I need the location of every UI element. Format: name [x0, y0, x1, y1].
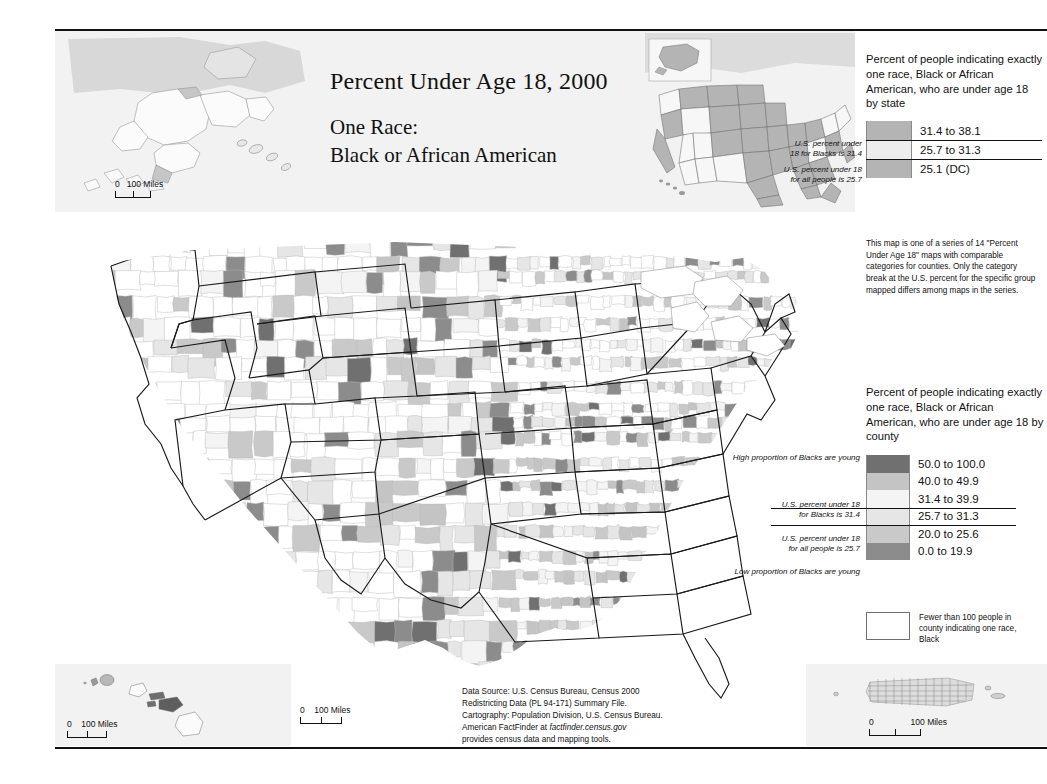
county-polygon	[258, 296, 272, 319]
county-polygon	[625, 272, 633, 284]
county-legend-label: 20.0 to 25.6	[910, 525, 979, 543]
county-polygon	[681, 358, 695, 370]
county-polygon	[251, 381, 267, 399]
state-legend-row[interactable]: 25.7 to 31.3	[866, 140, 1042, 159]
state-legend-label: 25.1 (DC)	[912, 159, 970, 178]
county-legend-swatch	[866, 455, 910, 473]
county-polygon	[512, 295, 521, 304]
county-legend-nodata[interactable]: Fewer than 100 people in county indicati…	[866, 612, 1029, 645]
county-polygon	[511, 598, 520, 612]
county-polygon	[203, 255, 227, 272]
county-polygon	[542, 403, 553, 411]
county-polygon	[572, 257, 581, 269]
county-legend-row[interactable]: 25.7 to 31.3	[866, 508, 1044, 526]
us-county-map-svg	[75, 228, 855, 736]
county-legend-row[interactable]: 50.0 to 100.0	[866, 455, 1044, 473]
alaska-inset-svg	[60, 33, 310, 209]
factfinder-url: factfinder.census.gov	[549, 723, 626, 732]
county-polygon	[554, 271, 567, 283]
county-polygon	[540, 296, 553, 306]
county-polygon	[352, 551, 379, 569]
county-legend-row[interactable]: 31.4 to 39.9	[866, 490, 1044, 508]
county-polygon	[172, 355, 189, 372]
county-polygon	[627, 316, 636, 325]
county-polygon	[626, 339, 637, 351]
county-polygon	[398, 598, 424, 618]
county-polygon	[674, 256, 685, 267]
map-page: 0 100 Miles Percent Under Age 18, 2000 O…	[0, 0, 1047, 784]
county-polygon	[133, 296, 157, 322]
state-legend-label: 25.7 to 31.3	[912, 140, 981, 159]
main-map-scalebar: 0 100 Miles	[300, 706, 358, 724]
state-legend-row[interactable]: 31.4 to 38.1	[866, 121, 1042, 140]
county-polygon	[600, 358, 612, 372]
hawaii-scalebar-zero: 0	[67, 719, 72, 729]
county-polygon	[530, 256, 539, 269]
state-legend-label: 31.4 to 38.1	[912, 121, 981, 140]
county-legend-row[interactable]: 20.0 to 25.6	[866, 525, 1044, 543]
hawaii-scalebar-value: 100 Miles	[81, 719, 117, 729]
county-polygon	[564, 526, 573, 537]
title-block: Percent Under Age 18, 2000 One Race: Bla…	[330, 68, 690, 169]
county-legend-swatch	[866, 525, 910, 543]
county-legend-row[interactable]: 40.0 to 49.9	[866, 473, 1044, 491]
county-polygon	[591, 339, 600, 348]
county-polygon	[143, 318, 166, 343]
county-polygon	[255, 459, 275, 475]
county-polygon	[631, 383, 646, 393]
county-polygon	[591, 270, 603, 281]
county-polygon	[500, 296, 512, 306]
county-note-low-1: Low proportion of Blacks are young	[735, 567, 860, 577]
county-polygon	[555, 502, 569, 512]
county-polygon	[291, 459, 312, 473]
source-line-5: provides census data and mapping tools.	[462, 734, 762, 746]
county-polygon	[544, 503, 557, 515]
county-polygon	[533, 297, 541, 305]
county-polygon	[645, 404, 658, 413]
county-polygon	[335, 318, 355, 340]
pr-scalebar-zero: 0	[869, 718, 874, 727]
county-polygon	[550, 620, 558, 630]
county-polygon	[199, 381, 225, 407]
county-polygon	[430, 381, 448, 400]
county-polygon	[653, 297, 665, 312]
county-legend-swatch	[866, 473, 910, 491]
county-note-blacks-1: U.S. percent under 18	[782, 500, 860, 510]
county-polygon	[498, 271, 510, 279]
county-polygon	[456, 271, 478, 296]
county-polygon	[580, 256, 590, 265]
series-note: This map is one of a series of 14 "Perce…	[866, 238, 1038, 296]
county-polygon	[632, 526, 647, 538]
county-polygon	[438, 571, 454, 596]
county-polygon	[250, 479, 267, 505]
county-polygon	[540, 318, 551, 332]
county-polygon	[376, 458, 401, 476]
hawaii-inset-map: 0 100 Miles	[55, 664, 291, 746]
county-note-blacks-2: for Blacks is 31.4	[799, 510, 860, 520]
source-line-4-pre: American FactFinder at	[462, 723, 549, 732]
us-county-choropleth-map[interactable]: 0 100 Miles	[75, 228, 855, 736]
county-polygon	[333, 480, 352, 505]
state-legend-break-all	[866, 159, 1042, 160]
county-polygon	[416, 358, 435, 375]
county-polygon	[649, 503, 661, 512]
state-legend-row[interactable]: 25.1 (DC)	[866, 159, 1042, 178]
county-polygon	[154, 271, 178, 286]
county-polygon	[267, 381, 290, 400]
county-polygon	[317, 271, 344, 294]
county-polygon	[254, 431, 274, 457]
county-polygon	[583, 526, 595, 537]
county-polygon	[519, 598, 530, 610]
county-polygon	[560, 597, 573, 606]
county-polygon	[230, 404, 257, 419]
county-polygon	[610, 356, 624, 367]
county-polygon	[521, 552, 529, 560]
county-polygon	[584, 318, 597, 332]
county-legend-row[interactable]: 0.0 to 19.9	[866, 543, 1044, 561]
county-polygon	[539, 598, 551, 607]
county-polygon	[658, 432, 670, 442]
county-polygon	[587, 480, 598, 495]
county-polygon	[288, 502, 311, 521]
county-polygon	[491, 357, 510, 373]
county-polygon	[535, 271, 545, 284]
